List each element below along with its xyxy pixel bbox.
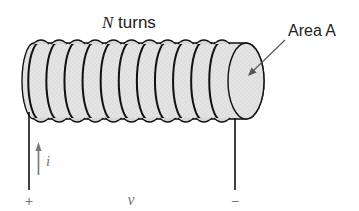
coil-bottom-bump [69, 118, 85, 122]
solenoid-diagram: i + − v N turns Area A [0, 0, 359, 211]
current-label: i [46, 153, 50, 169]
coil-bottom-bump [124, 118, 140, 122]
coil-top-bump [69, 40, 85, 44]
current-arrow-icon [36, 142, 42, 175]
coil-bottom-bump [87, 118, 103, 122]
voltage-label: v [127, 191, 135, 208]
coil-top-bump [214, 40, 230, 44]
coil-top-bump [124, 40, 140, 44]
turns-label: N turns [101, 13, 156, 32]
plus-sign: + [25, 193, 33, 209]
minus-sign: − [231, 193, 239, 209]
coil-top-bump [33, 40, 49, 44]
coil-top-bump [142, 40, 158, 44]
coil-top-bump [87, 40, 103, 44]
coil-top-bump [51, 40, 67, 44]
coil-top-bump [160, 40, 176, 44]
end-face-ellipse [228, 43, 264, 119]
coil-bottom-bump [160, 118, 176, 122]
coil-bottom-bump [142, 118, 158, 122]
coil-top-bump [105, 40, 121, 44]
coil-bottom-bump [105, 118, 121, 122]
turns-text: turns [113, 13, 156, 32]
coil-top-bump [196, 40, 212, 44]
coil-bottom-bump [33, 118, 49, 122]
area-label: Area A [288, 22, 336, 39]
coil-bottom-bump [178, 118, 194, 122]
coil-top-bump [178, 40, 194, 44]
coil-bottom-bump [51, 118, 67, 122]
coil-bottom-bump [196, 118, 212, 122]
coil-bottom-bump [214, 118, 230, 122]
